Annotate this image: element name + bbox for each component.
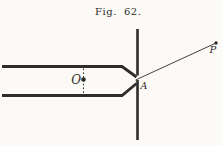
figure-62: Fig. 62. O A P	[0, 0, 222, 146]
optics-diagram: O A P	[0, 0, 222, 146]
tube-lower-wall	[2, 84, 137, 96]
label-A: A	[140, 80, 148, 91]
label-P: P	[209, 44, 217, 55]
point-O-dot	[81, 77, 86, 82]
ray-A-to-P	[136, 43, 217, 80]
label-O: O	[71, 73, 81, 87]
tube-upper-wall	[2, 67, 137, 78]
